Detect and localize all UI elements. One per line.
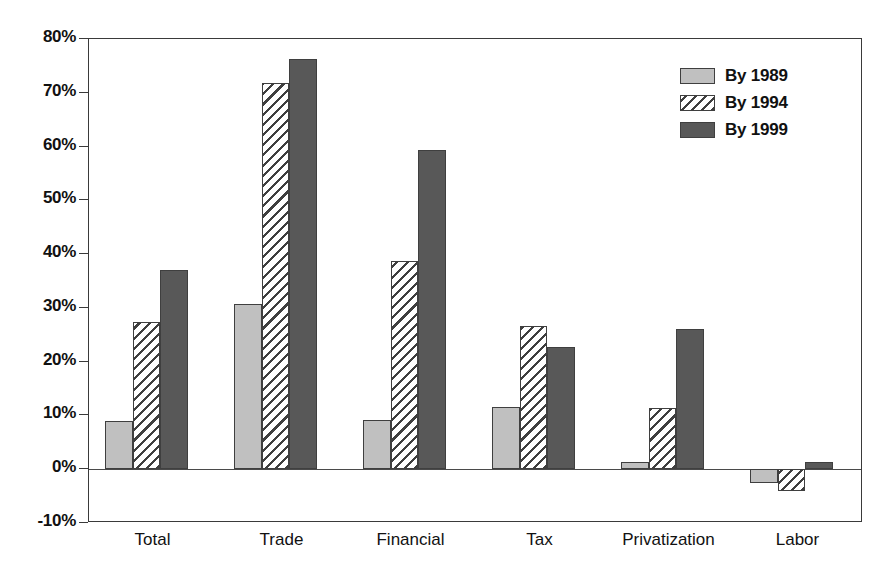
y-axis-tick-label: 10% bbox=[43, 402, 76, 424]
y-axis-tick-label: 40% bbox=[43, 241, 76, 263]
y-axis-tick-label: 30% bbox=[43, 295, 76, 317]
x-axis-label-privatization: Privatization bbox=[604, 528, 733, 552]
legend-swatch-icon bbox=[680, 68, 715, 84]
bar-total-by-1994 bbox=[133, 322, 161, 469]
zero-baseline bbox=[89, 469, 861, 470]
y-axis-tick-label: 0% bbox=[52, 456, 76, 478]
legend-swatch-icon bbox=[680, 122, 715, 138]
bar-labor-by-1999 bbox=[805, 462, 833, 469]
x-axis-labels: TotalTradeFinancialTaxPrivatizationLabor bbox=[88, 528, 862, 562]
y-axis-tick-label: -10% bbox=[38, 510, 77, 532]
y-axis-tick-mark bbox=[79, 307, 88, 308]
bar-trade-by-1999 bbox=[289, 59, 317, 469]
bar-financial-by-1989 bbox=[363, 420, 391, 469]
y-axis-tick-mark bbox=[79, 468, 88, 469]
y-axis-tick-label: 60% bbox=[43, 134, 76, 156]
legend-item-by-1994: By 1994 bbox=[680, 90, 830, 115]
bar-labor-by-1994 bbox=[778, 469, 806, 491]
bar-total-by-1989 bbox=[105, 421, 133, 469]
y-axis-tick-mark bbox=[79, 38, 88, 39]
x-axis-label-trade: Trade bbox=[217, 528, 346, 552]
bar-tax-by-1989 bbox=[492, 407, 520, 469]
legend-label: By 1989 bbox=[725, 66, 788, 86]
bar-financial-by-1999 bbox=[418, 150, 446, 469]
legend-item-by-1989: By 1989 bbox=[680, 63, 830, 88]
y-axis-tick-label: 20% bbox=[43, 349, 76, 371]
bar-trade-by-1989 bbox=[234, 304, 262, 470]
x-axis-label-labor: Labor bbox=[733, 528, 862, 552]
bar-chart: 80%70%60%50%40%30%20%10%0%-10% TotalTrad… bbox=[0, 0, 893, 573]
y-axis-tick-mark bbox=[79, 414, 88, 415]
bar-tax-by-1999 bbox=[547, 347, 575, 469]
bar-financial-by-1994 bbox=[391, 261, 419, 469]
legend-label: By 1994 bbox=[725, 93, 788, 113]
bar-privatization-by-1994 bbox=[649, 408, 677, 469]
y-axis-tick-mark bbox=[79, 146, 88, 147]
x-axis-label-tax: Tax bbox=[475, 528, 604, 552]
y-axis-tick-mark bbox=[79, 361, 88, 362]
x-axis-label-financial: Financial bbox=[346, 528, 475, 552]
y-axis-tick-mark bbox=[79, 199, 88, 200]
legend-item-by-1999: By 1999 bbox=[680, 117, 830, 142]
bar-privatization-by-1999 bbox=[676, 329, 704, 469]
y-axis-tick-mark bbox=[79, 92, 88, 93]
legend: By 1989By 1994By 1999 bbox=[680, 63, 830, 144]
y-axis: 80%70%60%50%40%30%20%10%0%-10% bbox=[0, 38, 88, 522]
y-axis-tick-label: 50% bbox=[43, 187, 76, 209]
y-axis-tick-label: 80% bbox=[43, 26, 76, 48]
bar-total-by-1999 bbox=[160, 270, 188, 469]
legend-label: By 1999 bbox=[725, 120, 788, 140]
y-axis-tick-mark bbox=[79, 522, 88, 523]
bar-labor-by-1989 bbox=[750, 469, 778, 482]
bar-privatization-by-1989 bbox=[621, 462, 649, 469]
bar-trade-by-1994 bbox=[262, 83, 290, 469]
x-axis-label-total: Total bbox=[88, 528, 217, 552]
bar-tax-by-1994 bbox=[520, 326, 548, 470]
y-axis-tick-label: 70% bbox=[43, 80, 76, 102]
y-axis-tick-mark bbox=[79, 253, 88, 254]
legend-swatch-icon bbox=[680, 95, 715, 111]
